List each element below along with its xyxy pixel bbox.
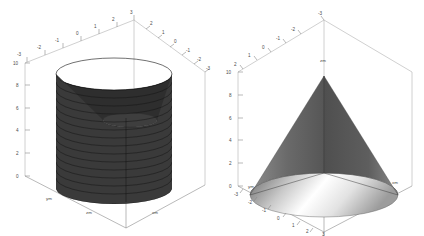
cone-z-ticklabels: 0 2 4 6 8 10 <box>226 70 232 189</box>
cone-zlabel: zm <box>320 58 326 63</box>
svg-text:-2: -2 <box>197 57 202 62</box>
svg-text:2: 2 <box>234 62 237 67</box>
cone-surface <box>250 76 398 217</box>
cone-y-axis <box>240 16 324 69</box>
svg-text:2: 2 <box>150 21 153 26</box>
plot-cylinder[interactable]: -3 -2 -1 0 1 2 3 2 1 0 -1 <box>0 0 212 236</box>
svg-text:-2: -2 <box>248 200 253 205</box>
svg-text:1: 1 <box>94 24 97 29</box>
svg-text:0: 0 <box>16 174 19 179</box>
svg-text:2: 2 <box>306 229 309 234</box>
svg-text:-3: -3 <box>234 192 239 197</box>
cone-ylabel: ym <box>248 184 254 189</box>
svg-text:1: 1 <box>248 53 251 58</box>
svg-text:2: 2 <box>229 161 232 166</box>
svg-text:0: 0 <box>76 31 79 36</box>
figure-canvas: -3 -2 -1 0 1 2 3 2 1 0 -1 <box>0 0 424 236</box>
cylinder-y-axis <box>146 26 209 72</box>
cone-base-ellipse <box>250 173 398 217</box>
svg-text:2: 2 <box>16 151 19 156</box>
cylinder-surface <box>56 58 172 204</box>
svg-text:3: 3 <box>322 232 325 236</box>
cone-axes-svg: 2 1 0 -1 -2 -3 0 2 4 6 8 <box>212 0 424 236</box>
svg-text:4: 4 <box>16 128 19 133</box>
svg-text:-2: -2 <box>291 27 296 32</box>
svg-text:1: 1 <box>162 30 165 35</box>
cone-z-axis <box>238 72 243 186</box>
svg-text:-1: -1 <box>262 208 267 213</box>
svg-text:2: 2 <box>112 17 115 22</box>
svg-text:3: 3 <box>130 10 133 15</box>
svg-text:6: 6 <box>16 106 19 111</box>
cylinder-x-ticklabels: -3 -2 -1 0 1 2 3 <box>17 10 133 57</box>
svg-text:10: 10 <box>13 61 19 66</box>
cylinder-zlabel: zm <box>86 210 92 215</box>
cone-y-ticklabels: 2 1 0 -1 -2 -3 <box>234 11 323 67</box>
svg-text:-3: -3 <box>206 66 211 71</box>
svg-text:-3: -3 <box>17 52 22 57</box>
svg-text:-1: -1 <box>276 36 281 41</box>
cylinder-axes-svg: -3 -2 -1 0 1 2 3 2 1 0 -1 <box>0 0 212 236</box>
plot-cone[interactable]: 2 1 0 -1 -2 -3 0 2 4 6 8 <box>212 0 424 236</box>
svg-text:-2: -2 <box>37 45 42 50</box>
svg-text:0: 0 <box>174 39 177 44</box>
cylinder-y-ticklabels: 2 1 0 -1 -2 -3 <box>150 21 211 71</box>
cylinder-x-axis <box>27 15 134 62</box>
cone-xlabel: xm <box>392 180 398 185</box>
svg-text:-3: -3 <box>318 11 323 16</box>
svg-text:-1: -1 <box>55 38 60 43</box>
svg-text:0: 0 <box>277 216 280 221</box>
svg-text:4: 4 <box>229 138 232 143</box>
cylinder-z-axis <box>25 63 30 176</box>
cylinder-z-ticklabels: 0 2 4 6 8 10 <box>13 61 19 179</box>
cylinder-xlabel: xm <box>152 210 158 215</box>
svg-text:1: 1 <box>292 223 295 228</box>
svg-text:6: 6 <box>229 116 232 121</box>
svg-text:0: 0 <box>262 45 265 50</box>
svg-text:8: 8 <box>16 83 19 88</box>
cylinder-ylabel: ym <box>46 196 52 201</box>
svg-text:-1: -1 <box>186 48 191 53</box>
svg-text:0: 0 <box>229 184 232 189</box>
svg-text:8: 8 <box>229 93 232 98</box>
svg-text:10: 10 <box>226 70 232 75</box>
